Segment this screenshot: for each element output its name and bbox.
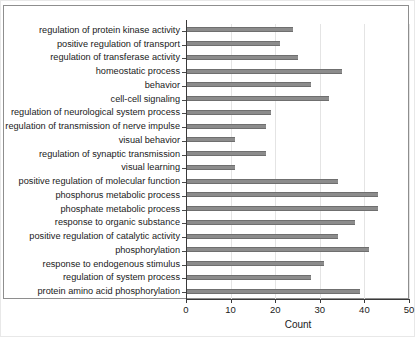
bar-row: response to organic substance — [186, 217, 410, 231]
y-axis-label: cell-cell signaling — [111, 95, 180, 104]
bar[interactable] — [186, 55, 298, 60]
bar[interactable] — [186, 96, 329, 101]
y-axis-label: phosphate metabolic process — [60, 205, 180, 214]
y-axis-label: positive regulation of transport — [57, 40, 180, 49]
bar[interactable] — [186, 137, 235, 142]
bar[interactable] — [186, 69, 342, 74]
x-axis-tick-label: 20 — [270, 305, 281, 315]
x-axis-tick-label: 30 — [315, 305, 326, 315]
y-axis-label: homeostatic process — [96, 67, 180, 76]
bar-row: phosphorus metabolic process — [186, 189, 410, 203]
bar-row: regulation of neurological system proces… — [186, 107, 410, 121]
bar[interactable] — [186, 220, 355, 225]
bar-row: regulation of transmission of nerve impu… — [186, 120, 410, 134]
bar[interactable] — [186, 179, 338, 184]
x-axis-tick-label: 40 — [359, 305, 370, 315]
plot-frame: regulation of protein kinase activitypos… — [3, 5, 409, 299]
y-axis-label: protein amino acid phosphorylation — [38, 287, 181, 296]
y-axis-label: regulation of synaptic transmission — [39, 150, 180, 159]
bar-row: phosphorylation — [186, 244, 410, 258]
bar[interactable] — [186, 289, 360, 294]
bar-row: visual learning — [186, 162, 410, 176]
y-axis-label: regulation of transferase activity — [50, 53, 180, 62]
bar-row: regulation of synaptic transmission — [186, 148, 410, 162]
x-axis-tick — [186, 299, 187, 303]
bar[interactable] — [186, 82, 311, 87]
bar[interactable] — [186, 206, 378, 211]
bar-row: regulation of system process — [186, 272, 410, 286]
bar[interactable] — [186, 165, 235, 170]
bar-row: visual behavior — [186, 134, 410, 148]
bar-row: regulation of protein kinase activity — [186, 24, 410, 38]
y-axis-label: visual behavior — [119, 136, 180, 145]
bar-row: positive regulation of molecular functio… — [186, 175, 410, 189]
bar[interactable] — [186, 41, 280, 46]
y-axis-label: regulation of protein kinase activity — [39, 26, 180, 35]
y-axis-label: regulation of neurological system proces… — [11, 108, 180, 117]
bar-row: behavior — [186, 79, 410, 93]
x-axis-tick — [275, 299, 276, 303]
bar[interactable] — [186, 110, 271, 115]
bar[interactable] — [186, 261, 324, 266]
bar-row: phosphate metabolic process — [186, 203, 410, 217]
y-axis-label: phosphorus metabolic process — [55, 191, 180, 200]
y-axis-label: regulation of system process — [63, 273, 180, 282]
y-axis-label: regulation of transmission of nerve impu… — [5, 122, 180, 131]
bar[interactable] — [186, 124, 266, 129]
x-axis-tick-label: 50 — [404, 305, 415, 315]
bar[interactable] — [186, 247, 369, 252]
y-axis-label: response to organic substance — [55, 218, 180, 227]
x-axis-title: Count — [186, 319, 410, 330]
x-axis-tick — [409, 299, 410, 303]
y-axis-label: response to endogenous stimulus — [43, 260, 180, 269]
bar-row: protein amino acid phosphorylation — [186, 285, 410, 299]
bar[interactable] — [186, 275, 311, 280]
bar-row: response to endogenous stimulus — [186, 258, 410, 272]
bar[interactable] — [186, 27, 293, 32]
x-axis-tick — [364, 299, 365, 303]
y-axis-line — [186, 20, 187, 300]
y-axis-label: visual learning — [121, 163, 180, 172]
y-axis-label: phosphorylation — [115, 246, 180, 255]
bar-row: positive regulation of transport — [186, 38, 410, 52]
bar-row: positive regulation of catalytic activit… — [186, 230, 410, 244]
bar[interactable] — [186, 192, 378, 197]
plot-area: regulation of protein kinase activitypos… — [186, 24, 410, 299]
bar-row: homeostatic process — [186, 65, 410, 79]
bar[interactable] — [186, 151, 266, 156]
x-axis-line — [186, 299, 410, 300]
x-axis-tick — [231, 299, 232, 303]
x-axis-tick — [320, 299, 321, 303]
x-axis-tick-label: 0 — [183, 305, 188, 315]
y-axis-label: positive regulation of catalytic activit… — [29, 232, 180, 241]
bar-row: regulation of transferase activity — [186, 52, 410, 66]
y-axis-label: behavior — [145, 81, 180, 90]
x-axis-tick-label: 10 — [225, 305, 236, 315]
y-axis-label: positive regulation of molecular functio… — [19, 177, 180, 186]
figure: regulation of protein kinase activitypos… — [0, 0, 415, 337]
bar-row: cell-cell signaling — [186, 93, 410, 107]
bar[interactable] — [186, 234, 338, 239]
